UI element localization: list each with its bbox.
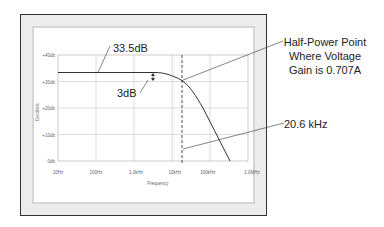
x-tick-1khz: 1.0kHz — [129, 170, 144, 175]
bode-plot: +40db +30db +20db +10db 0db 10Hz 100Hz 1… — [0, 0, 384, 227]
three-db-label: 3dB — [117, 87, 137, 99]
peak-gain-label: 33.5dB — [113, 42, 148, 54]
half-power-label-line1: Half-Power Point — [284, 36, 367, 48]
y-tick-30: +30db — [42, 80, 55, 85]
y-tick-0: 0db — [47, 159, 55, 164]
y-tick-40: +40db — [42, 53, 55, 58]
half-power-label-line2: Where Voltage — [289, 50, 361, 62]
x-tick-1mhz: 1.0MHz — [244, 170, 260, 175]
y-tick-10: +10db — [42, 133, 55, 138]
x-tick-100khz: 100kHz — [200, 170, 216, 175]
x-axis-title: Frequency — [147, 181, 169, 186]
y-tick-20: +20db — [42, 106, 55, 111]
x-tick-100hz: 100Hz — [89, 170, 103, 175]
y-axis-title: Decibels — [35, 103, 40, 121]
half-power-label-line3: Gain is 0.707A — [289, 64, 362, 76]
cutoff-frequency-label: 20.6 kHz — [284, 118, 327, 130]
x-tick-10khz: 10kHz — [169, 170, 183, 175]
x-tick-10hz: 10Hz — [53, 170, 64, 175]
